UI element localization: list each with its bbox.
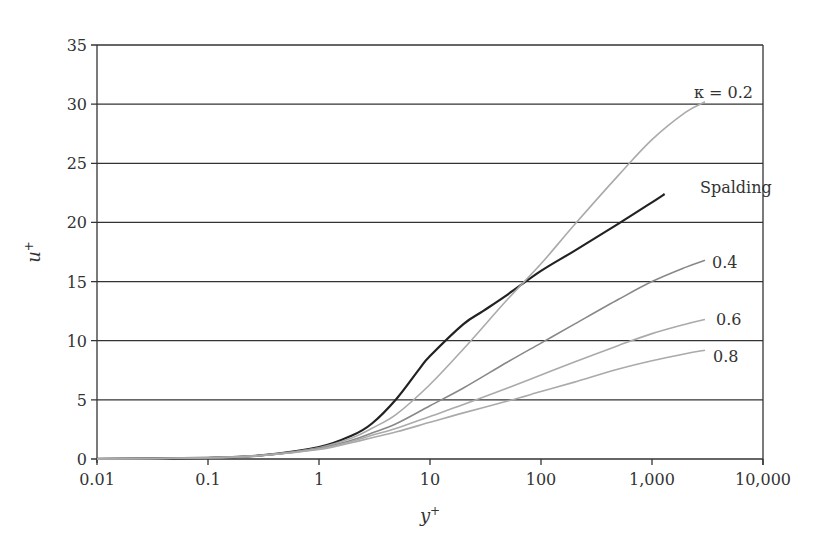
x-tick-label: 100 [526,470,557,489]
y-tick-label: 30 [67,95,87,114]
curve-0-8 [97,350,705,459]
chart-canvas: 0.010.11101001,00010,000 05101520253035 … [0,0,822,557]
y-tick-label: 10 [67,332,87,351]
y-tick-label: 5 [77,391,87,410]
y-tick-label: 35 [67,36,87,55]
curve-label: 0.4 [712,253,737,272]
curve-label: Spalding [700,178,772,197]
y-axis-title: u+ [22,241,44,263]
x-tick-label: 1 [314,470,324,489]
x-tick-label: 10,000 [735,470,791,489]
y-tick-label: 20 [67,213,87,232]
curve-label: 0.6 [716,310,741,329]
x-tick-label: 10 [420,470,440,489]
y-tick-label: 15 [67,273,87,292]
curve-labels: Spaldingκ = 0.20.40.60.8 [694,83,772,366]
x-tick-label: 0.1 [195,470,220,489]
y-tick-label: 0 [77,450,87,469]
curve-label: κ = 0.2 [694,83,753,102]
curve-kappa-0-2 [97,102,705,459]
curves [97,102,705,459]
y-axis-ticks: 05101520253035 [67,36,87,469]
curve-spalding [97,194,665,459]
curve-0-4 [97,260,705,459]
x-axis-title: y+ [419,504,440,526]
x-tick-label: 1,000 [629,470,675,489]
axes [97,45,763,465]
x-axis-ticks: 0.010.11101001,00010,000 [79,459,791,489]
curve-label: 0.8 [713,347,738,366]
gridlines [91,45,763,459]
y-tick-label: 25 [67,154,87,173]
x-tick-label: 0.01 [79,470,115,489]
